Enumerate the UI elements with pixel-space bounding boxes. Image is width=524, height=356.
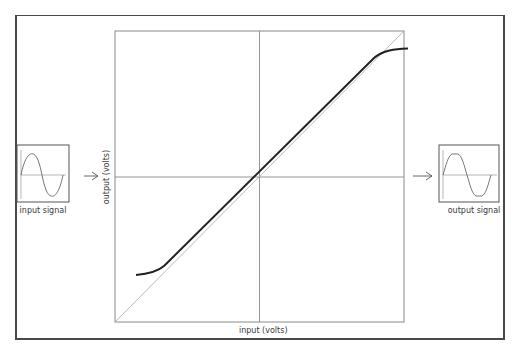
input-arrow-icon (84, 172, 98, 180)
input-signal-thumbnail (17, 145, 69, 202)
y-axis-label: output (volts) (102, 150, 111, 204)
diagram-canvas (0, 0, 524, 356)
output-signal-label: output signal (442, 206, 506, 215)
x-axis-label: input (volts) (239, 326, 288, 335)
output-arrow-icon (413, 172, 432, 180)
input-signal-label: input signal (15, 206, 71, 215)
transfer-plot (115, 31, 408, 322)
output-signal-thumbnail (439, 145, 499, 202)
